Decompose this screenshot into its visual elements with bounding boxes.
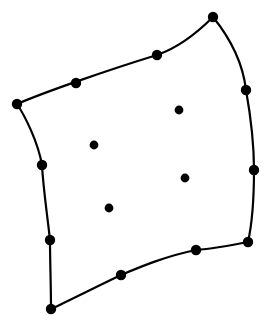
interior-nodes-group: [90, 106, 190, 213]
node-top-edge-2: [152, 50, 162, 60]
node-interior-1: [90, 141, 99, 150]
node-top-edge-1: [71, 78, 81, 88]
node-right-edge-1: [241, 85, 251, 95]
node-top-right: [208, 12, 218, 22]
edge-left-edge: [17, 104, 51, 309]
node-bottom-right: [243, 237, 253, 247]
node-left-edge-2: [37, 160, 47, 170]
edge-top-edge: [17, 17, 213, 104]
node-left-edge-1: [45, 235, 55, 245]
node-bottom-edge-2: [116, 270, 126, 280]
node-top-left: [12, 99, 22, 109]
figure-root: [0, 0, 272, 324]
mesh-diagram: [0, 0, 272, 324]
edges-group: [17, 17, 254, 309]
edge-right-edge: [213, 17, 254, 242]
edge-bottom-edge: [51, 242, 248, 309]
node-interior-4: [105, 204, 114, 213]
node-bottom-edge-1: [191, 245, 201, 255]
node-right-edge-2: [249, 165, 259, 175]
node-interior-2: [175, 106, 184, 115]
node-interior-3: [181, 174, 190, 183]
node-bottom-left: [46, 304, 56, 314]
